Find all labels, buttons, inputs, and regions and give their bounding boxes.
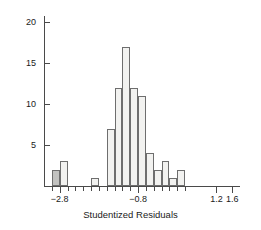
x-axis-title: Studentized Residuals [0,209,261,220]
histogram-chart: 5101520 −2.8−0.81.21.6 Count Studentized… [0,0,261,230]
histogram-bar [107,129,115,186]
histogram-bar [146,153,154,186]
x-tick--0.4 [154,187,155,191]
x-tick--2 [91,187,92,191]
x-tick--2.6 [68,187,69,191]
histogram-bars [44,14,240,187]
x-tick--2.8 [60,187,61,193]
histogram-bar [162,161,170,186]
y-tick-label-10: 10 [12,100,36,109]
histogram-bar [169,178,177,186]
x-tick-0.2 [177,187,178,191]
x-tick--2.2 [83,187,84,191]
histogram-bar [177,170,185,186]
x-tick-0.4 [185,187,186,191]
x-tick--1.2 [122,187,123,191]
histogram-bar [154,170,162,186]
histogram-bar [115,88,123,186]
x-tick--3 [52,187,53,191]
histogram-bar [122,47,130,186]
y-tick-label-20: 20 [12,18,36,27]
histogram-bar [91,178,99,186]
x-tick-1.2 [216,187,217,193]
x-tick--0.6 [146,187,147,191]
y-tick-label-5: 5 [12,141,36,150]
histogram-bar [52,170,60,186]
histogram-bar [138,96,146,186]
x-tick--0.2 [162,187,163,191]
histogram-bar [60,161,68,186]
x-tick-label-3: 1.6 [212,194,252,204]
x-tick--0.8 [138,187,139,193]
x-tick-label-0: −2.8 [40,194,80,204]
x-tick--1.4 [115,187,116,191]
x-tick--1 [130,187,131,191]
x-tick--1.6 [107,187,108,191]
y-tick-label-15: 15 [12,59,36,68]
x-tick--1.8 [99,187,100,191]
x-tick--2.4 [75,187,76,191]
x-tick-label-1: −0.8 [118,194,158,204]
x-tick-1.6 [232,187,233,193]
histogram-bar [130,88,138,186]
x-tick-0 [169,187,170,191]
